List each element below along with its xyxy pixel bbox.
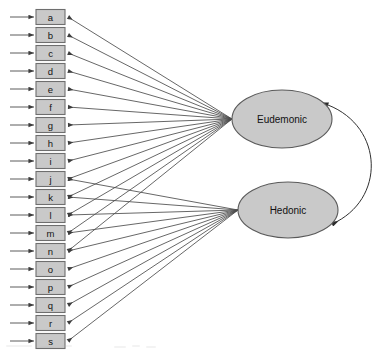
indicator-box-j[interactable]: j (36, 172, 65, 187)
sem-path-diagram: abcdefghijklmnopqrs EudemonicHedonic (0, 0, 376, 352)
factor-loading-paths (68, 17, 238, 341)
factor-label-eudemonic: Eudemonic (257, 114, 307, 125)
indicator-box-o[interactable]: o (36, 262, 65, 277)
indicator-label-g: g (48, 120, 53, 131)
indicator-box-s[interactable]: s (36, 334, 65, 349)
indicator-label-j: j (48, 174, 51, 185)
indicator-variable-boxes: abcdefghijklmnopqrs (36, 10, 65, 349)
loading-hedonic-to-o (68, 210, 238, 269)
indicator-label-o: o (48, 264, 53, 275)
indicator-box-c[interactable]: c (36, 46, 65, 61)
indicator-label-a: a (48, 12, 54, 23)
loading-eudemonic-to-l (68, 119, 232, 215)
indicator-box-p[interactable]: p (36, 280, 65, 295)
indicator-box-h[interactable]: h (36, 136, 65, 151)
residual-error-arrows (10, 17, 34, 341)
indicator-box-r[interactable]: r (36, 316, 65, 331)
indicator-label-s: s (48, 336, 53, 347)
loading-hedonic-to-j (68, 179, 238, 210)
indicator-label-h: h (48, 138, 53, 149)
indicator-box-l[interactable]: l (36, 208, 65, 223)
diagram-canvas: abcdefghijklmnopqrs EudemonicHedonic (0, 0, 376, 352)
indicator-label-b: b (48, 30, 53, 41)
loading-hedonic-to-l (68, 210, 238, 215)
loading-eudemonic-to-j (68, 119, 232, 179)
latent-factor-ellipses: EudemonicHedonic (232, 90, 338, 238)
indicator-label-q: q (48, 300, 53, 311)
indicator-label-e: e (48, 84, 53, 95)
indicator-box-q[interactable]: q (36, 298, 65, 313)
indicator-label-r: r (49, 318, 52, 329)
loading-hedonic-to-r (68, 210, 238, 323)
indicator-label-c: c (48, 48, 53, 59)
indicator-box-n[interactable]: n (36, 244, 65, 259)
indicator-box-b[interactable]: b (36, 28, 65, 43)
loading-eudemonic-to-b (68, 35, 232, 119)
factor-hedonic[interactable]: Hedonic (238, 182, 338, 238)
indicator-label-l: l (49, 210, 51, 221)
indicator-box-e[interactable]: e (36, 82, 65, 97)
indicator-label-n: n (48, 246, 53, 257)
loading-eudemonic-to-m (68, 119, 232, 233)
indicator-label-k: k (48, 192, 53, 203)
loading-hedonic-to-k (68, 197, 238, 210)
indicator-label-i: i (49, 156, 51, 167)
indicator-box-k[interactable]: k (36, 190, 65, 205)
factor-eudemonic[interactable]: Eudemonic (232, 90, 332, 148)
indicator-box-f[interactable]: f (36, 100, 65, 115)
indicator-label-m: m (47, 228, 55, 239)
indicator-box-m[interactable]: m (36, 226, 65, 241)
loading-hedonic-to-q (68, 210, 238, 305)
indicator-box-i[interactable]: i (36, 154, 65, 169)
indicator-box-a[interactable]: a (36, 10, 65, 25)
indicator-label-f: f (49, 102, 52, 113)
loading-eudemonic-to-g (68, 119, 232, 125)
indicator-label-p: p (48, 282, 53, 293)
indicator-box-d[interactable]: d (36, 64, 65, 79)
loading-eudemonic-to-i (68, 119, 232, 161)
loading-eudemonic-to-d (68, 71, 232, 119)
indicator-label-d: d (48, 66, 53, 77)
indicator-box-g[interactable]: g (36, 118, 65, 133)
factor-label-hedonic: Hedonic (270, 205, 307, 216)
